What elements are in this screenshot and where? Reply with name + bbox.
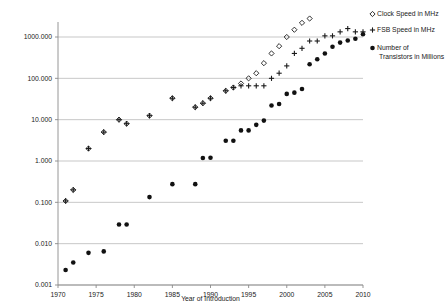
data-point xyxy=(345,26,350,31)
data-point xyxy=(361,32,366,37)
data-point xyxy=(200,101,205,106)
data-point xyxy=(284,63,289,68)
data-point xyxy=(223,88,228,93)
data-point xyxy=(193,182,198,187)
axes-group xyxy=(55,22,363,288)
chart-legend: Clock Speed in MHzFSB Speed in MHzNumber… xyxy=(370,10,445,60)
data-point xyxy=(101,249,106,254)
data-point xyxy=(284,92,289,97)
y-tick-label: 100.000 xyxy=(27,75,52,82)
data-point xyxy=(239,128,244,133)
data-point xyxy=(269,76,274,81)
data-point xyxy=(323,51,328,56)
data-point xyxy=(208,96,213,101)
data-point xyxy=(292,90,297,95)
y-tick-label: 0.100 xyxy=(35,199,52,206)
data-point xyxy=(254,83,259,88)
y-tick-label: 0.010 xyxy=(35,240,52,247)
legend-marker-plus-icon xyxy=(370,27,375,32)
legend-item-3[interactable]: Number ofTransistors in Millions xyxy=(370,44,444,60)
series-2 xyxy=(63,26,366,204)
y-tick-label: 10.000 xyxy=(31,116,52,123)
data-point xyxy=(299,20,304,25)
data-point xyxy=(63,268,68,273)
data-point xyxy=(353,37,358,42)
data-point xyxy=(201,156,206,161)
legend-marker-filled-circle-icon xyxy=(370,46,375,51)
data-point xyxy=(117,222,122,227)
data-point xyxy=(170,96,175,101)
data-point xyxy=(231,138,236,143)
data-point xyxy=(338,40,343,45)
data-point xyxy=(193,105,198,110)
x-tick-label: 1970 xyxy=(50,291,65,298)
legend-label-line2: Transistors in Millions xyxy=(379,53,445,60)
data-point xyxy=(254,71,259,76)
data-point xyxy=(353,29,358,34)
data-point xyxy=(71,260,76,265)
chart-container: 0.0010.0100.1001.00010.000100.0001000.00… xyxy=(0,0,447,307)
x-tick-label: 2005 xyxy=(317,291,332,298)
data-point xyxy=(71,187,76,192)
data-point xyxy=(254,123,259,128)
x-tick-label: 1985 xyxy=(165,291,180,298)
data-point xyxy=(300,87,305,92)
data-point xyxy=(307,62,312,67)
data-point xyxy=(124,222,129,227)
data-point xyxy=(208,155,213,160)
data-point xyxy=(231,85,236,90)
y-tick-label: 0.001 xyxy=(35,281,52,288)
data-point xyxy=(124,121,129,126)
data-point xyxy=(246,128,251,133)
series-1 xyxy=(63,16,312,204)
data-point xyxy=(147,195,152,200)
data-point xyxy=(63,198,68,203)
legend-item-2[interactable]: FSB Speed in MHz xyxy=(370,26,435,34)
data-point xyxy=(307,16,312,21)
y-tick-label: 1000.000 xyxy=(24,33,53,40)
data-point xyxy=(86,146,91,151)
x-tick-label: 1995 xyxy=(241,291,256,298)
data-point xyxy=(262,118,267,123)
legend-label: FSB Speed in MHz xyxy=(377,26,435,34)
legend-item-1[interactable]: Clock Speed in MHz xyxy=(370,10,439,18)
data-point xyxy=(246,83,251,88)
y-tick-label: 1.000 xyxy=(35,157,52,164)
x-axis-title: Year of Introduction xyxy=(181,295,240,302)
data-point xyxy=(269,51,274,56)
data-point xyxy=(116,117,121,122)
data-point xyxy=(330,33,335,38)
x-tick-label: 1980 xyxy=(127,291,142,298)
data-point xyxy=(292,51,297,56)
legend-label: Number of xyxy=(377,44,409,51)
data-point xyxy=(86,251,91,256)
data-point xyxy=(292,27,297,32)
data-point xyxy=(307,38,312,43)
x-tick-label: 1975 xyxy=(89,291,104,298)
data-point xyxy=(277,44,282,49)
legend-marker-open-diamond-icon xyxy=(370,11,375,16)
data-point xyxy=(315,57,320,62)
legend-label: Clock Speed in MHz xyxy=(377,10,439,18)
scatter-plot: 0.0010.0100.1001.00010.000100.0001000.00… xyxy=(0,0,447,307)
data-point xyxy=(330,44,335,49)
data-point xyxy=(322,33,327,38)
data-point xyxy=(269,103,274,108)
data-point xyxy=(299,46,304,51)
y-tick-labels: 0.0010.0100.1001.00010.000100.0001000.00… xyxy=(24,33,53,288)
gridlines-group xyxy=(58,37,363,285)
series-3 xyxy=(63,32,365,272)
data-point xyxy=(338,29,343,34)
data-point xyxy=(315,38,320,43)
x-tick-label: 2000 xyxy=(279,291,294,298)
x-tick-label: 2010 xyxy=(355,291,370,298)
data-point xyxy=(223,138,228,143)
data-point xyxy=(277,102,282,107)
data-point xyxy=(345,38,350,43)
data-point xyxy=(147,113,152,118)
data-point xyxy=(277,71,282,76)
data-point xyxy=(170,182,175,187)
data-point xyxy=(101,130,106,135)
data-point xyxy=(261,61,266,66)
data-series-layer xyxy=(63,16,366,272)
